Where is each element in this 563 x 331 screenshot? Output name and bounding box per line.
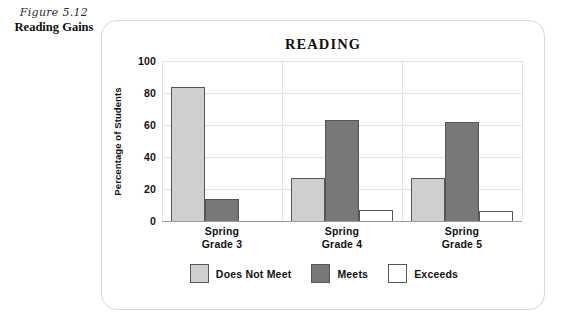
x-axis-label: SpringGrade 5 (402, 225, 522, 251)
legend-item[interactable]: Does Not Meet (190, 264, 292, 283)
y-axis-tick-label: 0 (150, 215, 156, 227)
plot-wrapper: Percentage of Students 020406080100 Spri… (102, 61, 546, 247)
y-axis-tick-label: 60 (144, 119, 156, 131)
bar-group (282, 61, 402, 221)
legend-item[interactable]: Meets (311, 264, 368, 283)
bar-exceeds (359, 210, 393, 221)
bar-does-not-meet (291, 178, 325, 221)
bar-groups (162, 61, 522, 221)
x-axis-label-line: Grade 5 (402, 238, 522, 251)
legend-swatch-meets (311, 264, 330, 283)
x-axis-labels: SpringGrade 3SpringGrade 4SpringGrade 5 (162, 225, 522, 251)
x-axis-label-line: Grade 4 (282, 238, 402, 251)
bar-group (162, 61, 282, 221)
chart-panel: READING Percentage of Students 020406080… (101, 20, 545, 310)
figure-caption: Figure 5.12 Reading Gains (8, 6, 100, 35)
y-axis-title: Percentage of Students (108, 61, 126, 221)
x-axis-label-line: Spring (282, 225, 402, 238)
chart-legend: Does Not MeetMeetsExceeds (102, 264, 546, 283)
x-axis-label-line: Spring (162, 225, 282, 238)
bar-meets (445, 122, 479, 221)
y-axis-tick-label: 20 (144, 183, 156, 195)
category-separator (522, 61, 523, 221)
x-axis-label-line: Spring (402, 225, 522, 238)
bar-does-not-meet (411, 178, 445, 221)
legend-label: Does Not Meet (216, 268, 292, 280)
bar-exceeds (479, 211, 513, 221)
y-axis-tick-label: 80 (144, 87, 156, 99)
figure-title: Reading Gains (8, 20, 100, 35)
y-axis-title-label: Percentage of Students (112, 87, 123, 195)
x-axis-label: SpringGrade 3 (162, 225, 282, 251)
bar-group (402, 61, 522, 221)
legend-swatch-exceeds (388, 264, 407, 283)
x-axis-label-line: Grade 3 (162, 238, 282, 251)
bar-meets (205, 199, 239, 221)
legend-label: Meets (337, 268, 368, 280)
legend-item[interactable]: Exceeds (388, 264, 458, 283)
y-axis-tick-label: 40 (144, 151, 156, 163)
figure-number: Figure 5.12 (8, 6, 100, 19)
legend-swatch-does-not-meet (190, 264, 209, 283)
y-axis-tick-label: 100 (138, 55, 156, 67)
chart-title: READING (102, 36, 544, 53)
y-axis-ticks: 020406080100 (126, 61, 156, 221)
legend-label: Exceeds (414, 268, 458, 280)
plot-area (162, 61, 522, 221)
x-axis-label: SpringGrade 4 (282, 225, 402, 251)
bar-meets (325, 120, 359, 221)
x-axis-line (162, 221, 522, 222)
bar-does-not-meet (171, 87, 205, 221)
